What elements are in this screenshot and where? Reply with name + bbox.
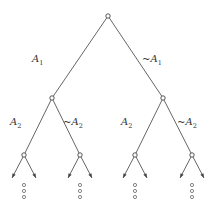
arrowhead-icon xyxy=(12,173,16,178)
variable-subscript: 2 xyxy=(79,122,83,130)
variable-symbol: A xyxy=(184,116,192,127)
tree-node-nA1nA2 xyxy=(190,153,194,157)
tree-svg: A1A2~A2~A1A2~A2 xyxy=(0,0,216,213)
ellipsis-dot xyxy=(133,195,136,198)
tree-node-nA1 xyxy=(161,96,165,100)
ellipsis-dot xyxy=(78,189,81,192)
arrowhead-icon xyxy=(200,173,204,178)
arrowhead-icon xyxy=(88,173,92,178)
tree-node-nA1A2 xyxy=(133,153,137,157)
ellipsis-dot xyxy=(133,183,136,186)
ellipsis-dot xyxy=(190,195,193,198)
variable-subscript: 2 xyxy=(17,122,21,130)
ellipsis-dot xyxy=(78,195,81,198)
arrowhead-icon xyxy=(143,173,147,178)
arrowhead-icon xyxy=(68,173,72,178)
ellipsis-dot xyxy=(22,189,25,192)
ellipsis-dot xyxy=(22,195,25,198)
tree-edge-nA1A2 xyxy=(135,98,163,155)
variable-symbol: A xyxy=(120,116,128,127)
variable-subscript: 1 xyxy=(158,59,162,67)
tree-node-A1nA2 xyxy=(78,153,82,157)
ellipsis-dot xyxy=(22,183,25,186)
negation-symbol: ~ xyxy=(63,116,71,127)
arrowhead-icon xyxy=(180,173,184,178)
negation-symbol: ~ xyxy=(142,53,150,64)
arrowhead-icon xyxy=(123,173,127,178)
tree-node-A1A2 xyxy=(22,153,26,157)
edge-label-A1: A1 xyxy=(31,53,43,67)
variable-symbol: A xyxy=(70,116,78,127)
arrowhead-icon xyxy=(32,173,36,178)
edge-label-nA1: ~A1 xyxy=(142,53,162,67)
edge-label-nA1A2: A2 xyxy=(120,116,132,130)
ellipsis-dot xyxy=(133,189,136,192)
probability-tree-diagram: A1A2~A2~A1A2~A2 xyxy=(0,0,216,213)
ellipsis-dot xyxy=(190,189,193,192)
ellipsis-dot xyxy=(190,183,193,186)
tree-node-A1 xyxy=(50,96,54,100)
edges xyxy=(12,16,204,178)
edge-label-A1A2: A2 xyxy=(9,116,21,130)
variable-symbol: A xyxy=(9,116,17,127)
variable-subscript: 2 xyxy=(193,122,197,130)
tree-edge-A1A2 xyxy=(24,98,52,155)
edge-label-nA1nA2: ~A2 xyxy=(177,116,197,130)
negation-symbol: ~ xyxy=(177,116,185,127)
edge-label-A1nA2: ~A2 xyxy=(63,116,83,130)
variable-symbol: A xyxy=(31,53,39,64)
variable-subscript: 2 xyxy=(128,122,132,130)
root-node xyxy=(106,14,110,18)
variable-subscript: 1 xyxy=(39,59,43,67)
variable-symbol: A xyxy=(149,53,157,64)
ellipsis-dot xyxy=(78,183,81,186)
tree-edge-A1 xyxy=(52,16,108,98)
